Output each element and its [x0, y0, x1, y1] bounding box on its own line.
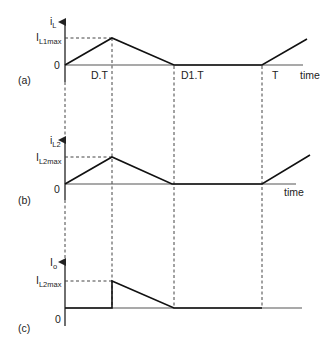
converter-waveform-diagram: iL IL1max 0 D.T D1.T T time (a) iL2 IL2m… — [0, 0, 333, 351]
waveform-b — [65, 155, 310, 184]
panel-label-c: (c) — [18, 322, 30, 334]
t-label: T — [272, 69, 279, 81]
y-axis-label-a: iL — [50, 15, 57, 30]
max-label-c: IL2max — [36, 274, 62, 289]
panel-b: iL2 IL2max 0 time (b) — [18, 134, 310, 206]
zero-label-c: 0 — [55, 313, 61, 325]
panel-label-a: (a) — [18, 74, 31, 86]
zero-label-b: 0 — [54, 183, 60, 195]
time-label-b: time — [284, 186, 304, 198]
dt-label: D.T — [91, 69, 109, 81]
panel-a: iL IL1max 0 D.T D1.T T time (a) — [18, 15, 320, 86]
y-axis-label-b: iL2 — [50, 134, 61, 149]
waveform-a — [65, 38, 307, 65]
panel-c: Io IL2max 0 (c) — [18, 256, 302, 334]
panel-label-b: (b) — [18, 194, 31, 206]
waveform-c — [65, 281, 262, 308]
time-label-a: time — [300, 69, 320, 81]
y-axis-label-c: Io — [50, 256, 57, 271]
zero-label-a: 0 — [54, 59, 60, 71]
max-label-b: IL2max — [36, 151, 62, 166]
d1t-label: D1.T — [181, 69, 204, 81]
max-label-a: IL1max — [36, 31, 62, 46]
